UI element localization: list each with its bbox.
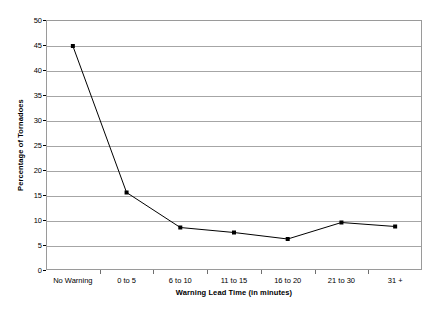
x-axis-tick-mark [153,270,154,274]
y-axis-tick-label: 25 [8,141,46,150]
data-point-marker [393,225,397,229]
data-point-marker [178,226,182,230]
y-axis-tick-label: 30 [8,116,46,125]
y-axis-tick-label: 10 [8,216,46,225]
x-axis-tick-label: 21 to 30 [328,276,355,285]
data-series-line [46,20,422,270]
data-point-marker [339,221,343,225]
series-polyline [73,46,395,239]
x-axis-tick-label: 31 + [388,276,403,285]
x-axis-tick-label: No Warning [53,276,92,285]
x-axis-tick-mark [207,270,208,274]
tornado-warning-lead-time-chart: Percentage of Tornadoes 5045403530252015… [0,0,440,313]
y-axis-tick-label: 20 [8,166,46,175]
y-axis-tick-label: 40 [8,66,46,75]
x-axis-tick-mark [315,270,316,274]
x-axis-tick-mark [368,270,369,274]
y-axis-tick-label: 0 [8,266,46,275]
x-axis-tick-mark [100,270,101,274]
x-axis-title: Warning Lead Time (in minutes) [46,288,422,297]
y-axis-tick-mark [43,270,46,271]
y-axis-tick-label: 35 [8,91,46,100]
y-axis-tick-label: 5 [8,241,46,250]
x-axis-tick-label: 16 to 20 [274,276,301,285]
x-axis-tick-label: 11 to 15 [221,276,248,285]
y-axis-tick-label: 50 [8,16,46,25]
x-axis-tick-label: 6 to 10 [169,276,192,285]
y-axis-tick-label: 45 [8,41,46,50]
x-axis-tick-label: 0 to 5 [117,276,136,285]
data-point-marker [232,231,236,235]
series-markers [71,44,397,241]
x-axis-tick-mark [261,270,262,274]
y-axis-tick-label: 15 [8,191,46,200]
data-point-marker [71,44,75,48]
data-point-marker [125,191,129,195]
data-point-marker [286,237,290,241]
y-axis-tick-layer: 50454035302520151050 [0,20,46,270]
